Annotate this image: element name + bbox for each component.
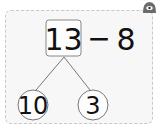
part-right-number: 3 [85, 92, 100, 120]
right-branch-line [64, 57, 90, 90]
number-bond-diagram: 13 − 8 10 3 [0, 0, 162, 130]
subtrahend: 8 [116, 22, 135, 57]
left-branch-line [36, 57, 64, 90]
part-left-number: 10 [18, 92, 49, 120]
minus-operator: − [87, 22, 110, 55]
whole-number: 13 [44, 22, 82, 57]
